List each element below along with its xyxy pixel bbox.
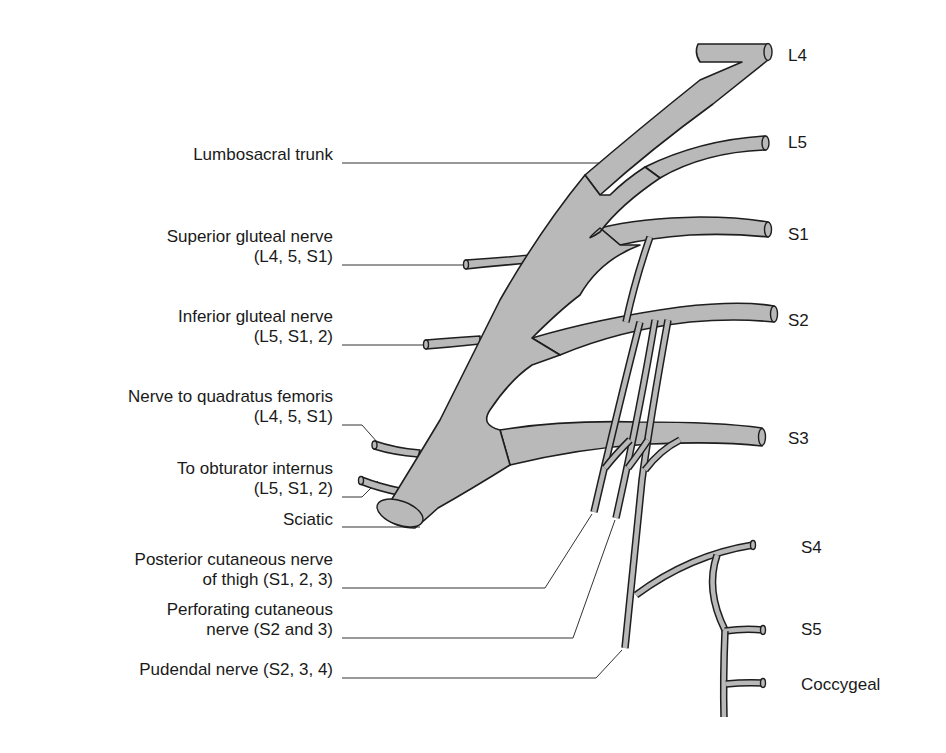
leader-quadratus-femoris	[342, 425, 378, 443]
label-posterior-cutaneous-nerve: Posterior cutaneous nerve of thigh (S1, …	[135, 550, 333, 590]
label-perforating-cutaneous-nerve: Perforating cutaneous nerve (S2 and 3)	[167, 600, 333, 640]
inferior-gluteal-nerve	[426, 336, 480, 349]
root-label-S4: S4	[801, 538, 822, 558]
nerve-to-quadratus-femoris	[374, 441, 420, 457]
root-label-S1: S1	[788, 225, 809, 245]
leader-posterior-cutaneous	[342, 514, 592, 588]
label-to-obturator-internus: To obturator internus (L5, S1, 2)	[177, 459, 333, 499]
leader-perforating-cutaneous	[342, 520, 615, 638]
root-label-coccygeal: Coccygeal	[801, 675, 880, 695]
root-L4	[585, 44, 768, 195]
label-superior-gluteal-nerve: Superior gluteal nerve (L4, 5, S1)	[167, 227, 333, 267]
label-lumbosacral-trunk: Lumbosacral trunk	[193, 145, 333, 165]
label-pudendal-nerve: Pudendal nerve (S2, 3, 4)	[139, 660, 333, 680]
root-S4-branch	[636, 545, 753, 595]
label-sciatic: Sciatic	[283, 510, 333, 530]
root-label-L5: L5	[788, 133, 807, 153]
leader-pudendal	[342, 650, 622, 678]
lower-roots	[636, 541, 766, 718]
root-label-L4: L4	[788, 46, 807, 66]
root-label-S2: S2	[788, 311, 809, 331]
root-S1	[600, 217, 768, 245]
sacral-plexus-diagram: .nv { fill: #b9b9b9; stroke: #1e1e1e; st…	[0, 0, 946, 753]
label-inferior-gluteal-nerve: Inferior gluteal nerve (L5, S1, 2)	[178, 307, 333, 347]
root-label-S5: S5	[801, 620, 822, 640]
root-label-S3: S3	[788, 429, 809, 449]
main-nerve-body	[373, 44, 777, 533]
label-nerve-to-quadratus-femoris: Nerve to quadratus femoris (L4, 5, S1)	[128, 387, 333, 427]
